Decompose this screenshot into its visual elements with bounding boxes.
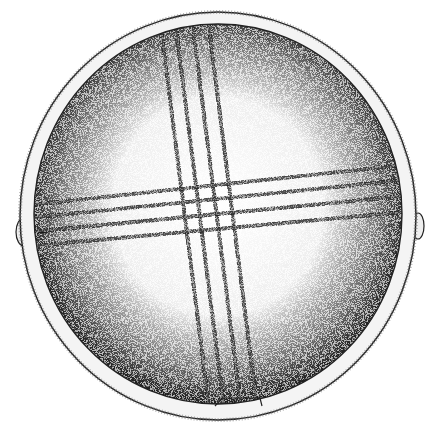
- illustration-canvas: [0, 0, 437, 439]
- disc-illustration: [0, 0, 437, 439]
